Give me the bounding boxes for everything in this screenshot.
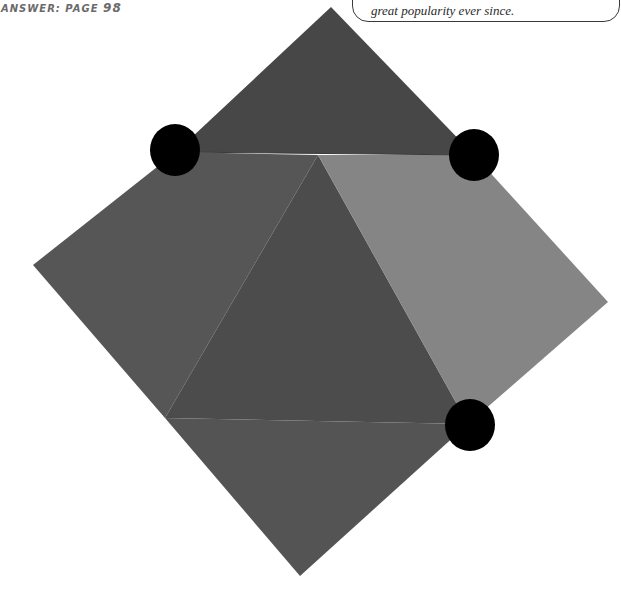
top-flap — [176, 7, 474, 155]
dot-top-right — [449, 129, 499, 181]
dot-bottom-right — [445, 399, 495, 451]
folded-square-puzzle — [0, 0, 621, 590]
bottom-panel — [165, 418, 468, 576]
dot-top-left — [150, 124, 200, 176]
